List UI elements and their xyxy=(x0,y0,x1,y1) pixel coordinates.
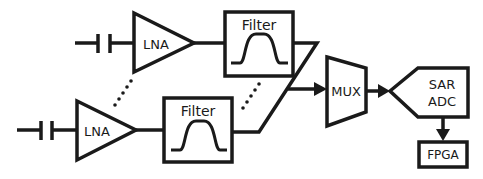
capacitor-icon xyxy=(98,34,110,53)
adc-label-line1: SAR xyxy=(429,77,455,92)
mux-label: MUX xyxy=(331,84,361,99)
filter-label-2: Filter xyxy=(181,103,216,119)
filter-label-1: Filter xyxy=(242,17,277,33)
dotted-line-between-lnas xyxy=(113,79,133,107)
capacitor-icon xyxy=(41,121,52,140)
adc-label-line2: ADC xyxy=(428,94,456,109)
arrowhead-icon xyxy=(314,82,327,96)
dotted-line-between-filters xyxy=(241,82,261,110)
arrowhead-icon xyxy=(436,129,450,141)
lna-label-2: LNA xyxy=(84,124,110,139)
bandpass-curve-icon xyxy=(231,34,288,63)
bandpass-curve-icon xyxy=(171,121,227,150)
sar-adc-block xyxy=(390,68,468,117)
fpga-label: FPGA xyxy=(427,148,459,162)
receiver-block-diagram: LNA Filter LNA Filter MUX SAR ADC FPGA xyxy=(0,0,483,179)
lna-label-1: LNA xyxy=(143,37,169,52)
